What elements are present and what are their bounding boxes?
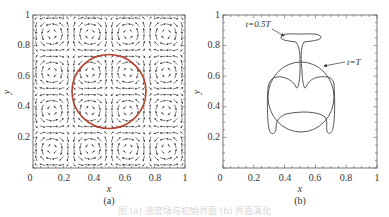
plot-frame-b [223,15,377,168]
x-tick: 1 [375,172,380,183]
y-tick: 0.4 [208,100,221,111]
x-tick: 0.2 [248,172,261,183]
x-tick: 0.2 [58,172,71,183]
y-tick: 0.2 [208,131,221,142]
y-tick: 1 [215,9,220,20]
annotation-t-half: t=0.5T [246,19,272,29]
x-axis-label-b: x [297,183,303,194]
x-tick: 0.8 [340,172,353,183]
figure-caption: 图 (a) 速度场与初始界面 (b) 界面演化 [0,204,389,217]
y-tick-labels-b: 1 0.8 0.6 0.4 0.2 [208,9,221,142]
x-tick: 0.4 [279,172,292,183]
y-tick: 0.6 [208,70,221,81]
panel-a: 0 0.2 0.4 0.6 0.8 1 1 0.8 0.6 0.4 0.2 x … [1,9,188,207]
axis-ticks-a [33,15,185,168]
x-tick: 1 [183,172,188,183]
y-tick: 0.2 [18,131,31,142]
velocity-field [35,17,183,166]
initial-interface-circle [72,55,146,129]
y-tick: 0.8 [208,39,221,50]
x-tick: 0.6 [309,172,322,183]
x-axis-label-a: x [106,183,112,194]
interface-t-half-period [267,34,334,134]
annotation-t-full: t=T [347,57,362,67]
y-tick-labels-a: 1 0.8 0.6 0.4 0.2 [18,9,31,142]
y-axis-label-a: y [1,89,12,95]
x-tick: 0 [218,172,223,183]
y-axis-label-b: y [191,89,202,95]
x-tick-labels-a: 0 0.2 0.4 0.6 0.8 1 [28,172,188,183]
x-tick-labels-b: 0 0.2 0.4 0.6 0.8 1 [218,172,380,183]
figure: 0 0.2 0.4 0.6 0.8 1 1 0.8 0.6 0.4 0.2 x … [0,0,389,217]
interface-full-period [268,62,334,132]
y-tick: 1 [25,9,30,20]
plot-frame-a [33,15,185,168]
axis-ticks-b [223,15,377,168]
x-tick: 0.6 [119,172,132,183]
x-tick: 0.4 [88,172,101,183]
y-tick: 0.6 [18,70,31,81]
annotation-arrow-t-full [324,62,345,66]
panel-b: t=0.5T t=T 0 0.2 0.4 0.6 0.8 1 1 0.8 0.6… [191,9,380,207]
y-tick: 0.4 [18,100,31,111]
x-tick: 0.8 [149,172,162,183]
y-tick: 0.8 [18,39,31,50]
annotation-arrow-t-half [272,29,284,36]
x-tick: 0 [28,172,33,183]
